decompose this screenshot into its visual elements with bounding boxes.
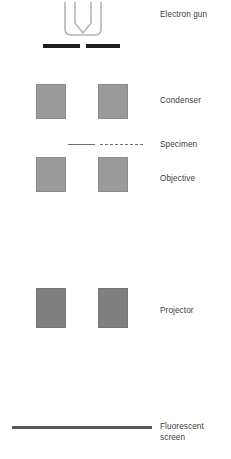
condenser-lens-left	[36, 84, 66, 119]
condenser-lens-right	[98, 84, 128, 119]
label-objective: Objective	[160, 173, 195, 184]
label-specimen: Specimen	[160, 139, 197, 150]
projector-lens-left	[36, 288, 66, 328]
fluorescent-screen-line	[12, 426, 152, 429]
label-fluorescent-screen: Fluorescent screen	[160, 421, 204, 443]
anode-plate-right	[86, 44, 120, 48]
anode-plate-left	[43, 44, 80, 48]
objective-lens-left	[36, 157, 66, 192]
diagram-canvas: Electron gun Condenser Specimen Objectiv…	[0, 0, 231, 459]
projector-lens-right	[98, 288, 128, 328]
specimen-line-solid	[68, 144, 95, 145]
label-electron-gun: Electron gun	[160, 9, 207, 20]
specimen-line-dashed	[100, 144, 143, 145]
label-condenser: Condenser	[160, 95, 201, 106]
label-projector: Projector	[160, 305, 194, 316]
electron-gun-icon	[62, 2, 104, 38]
objective-lens-right	[98, 157, 128, 192]
